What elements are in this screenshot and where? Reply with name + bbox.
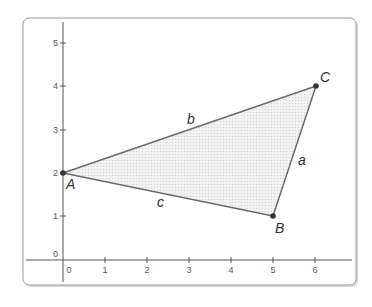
side-a-label: a bbox=[298, 152, 306, 168]
coordinate-plane: 0 1 2 3 4 5 6 0 1 2 3 4 5 A B C a b c bbox=[0, 0, 372, 307]
point-a bbox=[60, 170, 66, 176]
x-tick-label: 0 bbox=[66, 265, 71, 275]
y-tick-label: 0 bbox=[53, 249, 58, 259]
point-b bbox=[270, 213, 276, 219]
y-tick-label: 1 bbox=[53, 211, 58, 221]
x-tick-label: 6 bbox=[312, 265, 317, 275]
x-tick-label: 4 bbox=[228, 265, 233, 275]
y-tick-label: 3 bbox=[53, 125, 58, 135]
x-tick-label: 5 bbox=[270, 265, 275, 275]
side-b-label: b bbox=[187, 111, 195, 127]
point-b-label: B bbox=[275, 220, 284, 236]
point-c bbox=[313, 83, 319, 89]
side-c-label: c bbox=[157, 194, 164, 210]
point-c-label: C bbox=[320, 69, 331, 85]
y-tick-label: 5 bbox=[53, 38, 58, 48]
point-a-label: A bbox=[65, 176, 75, 192]
x-tick-label: 1 bbox=[102, 265, 107, 275]
x-tick-label: 2 bbox=[144, 265, 149, 275]
y-tick-label: 2 bbox=[53, 168, 58, 178]
x-tick-label: 3 bbox=[186, 265, 191, 275]
y-tick-label: 4 bbox=[53, 81, 58, 91]
